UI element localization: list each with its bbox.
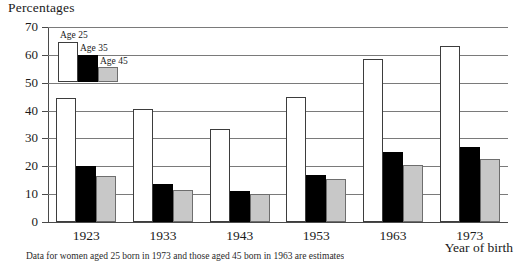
bar [153, 184, 173, 222]
bar [133, 109, 153, 222]
y-tick-label-50: 50 [10, 76, 38, 89]
y-tick-label-wrap-70: 70 [0, 20, 38, 33]
bar-group [440, 27, 500, 222]
bar [440, 46, 460, 222]
y-tick-label-60: 60 [10, 48, 38, 61]
bar [56, 98, 76, 222]
x-tick-label-1943: 1943 [201, 228, 278, 243]
chart-title: Percentages [8, 0, 75, 16]
y-tick-label-wrap-30: 30 [0, 131, 38, 144]
legend-label-age-45: Age 45 [100, 56, 128, 67]
bar [96, 176, 116, 222]
y-tick-label-70: 70 [10, 20, 38, 33]
x-tick-label-1963: 1963 [355, 228, 432, 243]
y-tick-label-wrap-0: 0 [0, 215, 38, 228]
gridline-0 [48, 222, 508, 223]
bar-group [210, 27, 270, 222]
y-tick-label-wrap-10: 10 [0, 187, 38, 200]
bar [326, 179, 346, 222]
y-tick-label-20: 20 [10, 159, 38, 172]
legend-label-age-35: Age 35 [80, 43, 108, 54]
bar [286, 97, 306, 222]
bar [250, 194, 270, 222]
legend-label-age-25: Age 25 [60, 30, 88, 41]
chart-legend: Age 25 Age 35 Age 45 [54, 28, 194, 90]
x-axis-title: Year of birth [445, 240, 513, 255]
bar [306, 175, 326, 222]
bar [403, 165, 423, 222]
bar-group [363, 27, 423, 222]
y-tick-label-wrap-50: 50 [0, 76, 38, 89]
y-tick-label-0: 0 [10, 215, 38, 228]
y-tick-label-40: 40 [10, 104, 38, 117]
y-tick-label-wrap-20: 20 [0, 159, 38, 172]
legend-swatch-age-35 [78, 55, 98, 82]
bar-group [286, 27, 346, 222]
x-tick-label-1923: 1923 [48, 228, 125, 243]
y-tick-label-wrap-40: 40 [0, 104, 38, 117]
y-tick-label-wrap-60: 60 [0, 48, 38, 61]
bar [480, 159, 500, 222]
legend-swatch-age-45 [98, 67, 118, 82]
chart-footnote: Data for women aged 25 born in 1973 and … [26, 251, 344, 262]
y-tick-label-30: 30 [10, 131, 38, 144]
bar [210, 129, 230, 222]
bar [173, 190, 193, 222]
x-tick-label-1953: 1953 [278, 228, 355, 243]
x-tick-label-1933: 1933 [125, 228, 202, 243]
bar [383, 152, 403, 222]
y-tick-label-10: 10 [10, 187, 38, 200]
bar [230, 191, 250, 222]
bar [76, 166, 96, 222]
y-tick-0 [42, 222, 48, 223]
bar [363, 59, 383, 222]
bar [460, 147, 480, 222]
legend-swatch-age-25 [58, 42, 78, 82]
